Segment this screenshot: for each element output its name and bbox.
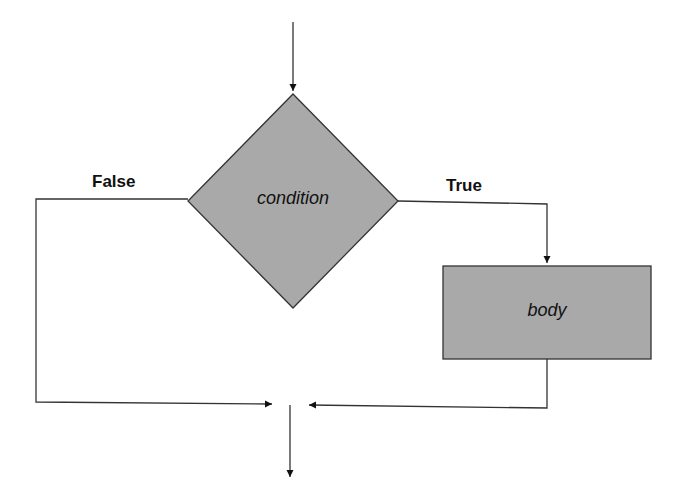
body-label: body <box>443 300 651 321</box>
true-label: True <box>446 176 482 196</box>
true-branch-line <box>398 201 547 263</box>
body-return-line <box>309 359 547 408</box>
flowchart-canvas <box>0 0 682 504</box>
condition-label: condition <box>218 188 368 209</box>
false-label: False <box>92 172 135 192</box>
